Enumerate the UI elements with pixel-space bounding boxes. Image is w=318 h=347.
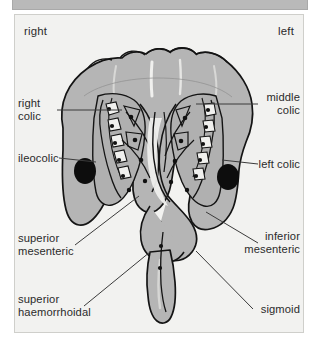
- orientation-label-right: right: [24, 25, 47, 37]
- label-left-colic: left colic: [190, 158, 300, 171]
- label-sigmoid: sigmoid: [190, 303, 300, 316]
- label-ileocolic: ileocolic: [18, 152, 59, 165]
- label-superior-haemorrhoidal: superior haemorrhoidal: [18, 293, 91, 319]
- top-gray-band: [12, 0, 308, 10]
- figure-panel: right left right colic ileocolic superio…: [0, 0, 318, 347]
- orientation-label-left: left: [278, 25, 294, 37]
- illustration-frame: [14, 14, 304, 333]
- label-superior-mesenteric: superior mesenteric: [18, 232, 74, 258]
- label-right-colic: right colic: [18, 97, 41, 123]
- label-inferior-mesenteric: inferior mesenteric: [180, 230, 300, 256]
- label-middle-colic: middle colic: [190, 91, 300, 117]
